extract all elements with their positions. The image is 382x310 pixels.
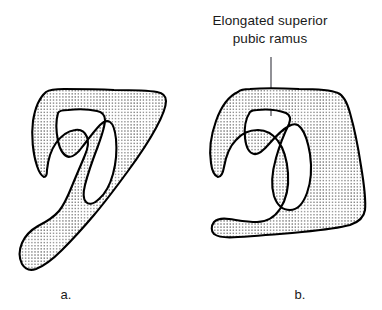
figure-canvas: Elongated superior pubic ramus a. b. — [0, 0, 382, 310]
annotation-line-2: pubic ramus — [233, 31, 308, 46]
panel-caption-a: a. — [61, 287, 72, 302]
annotation-line-1: Elongated superior — [212, 13, 328, 28]
anatomical-figure: Elongated superior pubic ramus a. b. — [0, 0, 382, 310]
panel-caption-b: b. — [295, 287, 306, 302]
